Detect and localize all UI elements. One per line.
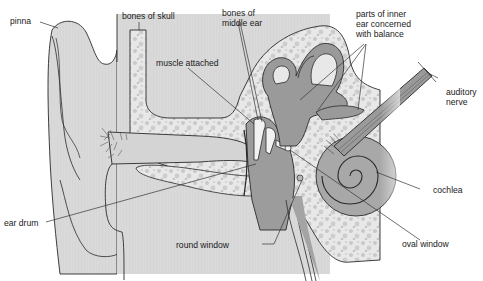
label-cochlea: cochlea bbox=[433, 185, 463, 195]
label-pinna: pinna bbox=[10, 16, 31, 26]
label-oval-window: oval window bbox=[402, 239, 449, 249]
label-bones-of-middle-ear-line1: bones of bbox=[222, 8, 255, 18]
pinna-shape bbox=[48, 21, 118, 274]
label-inner-ear-balance-line3: with balance bbox=[356, 29, 404, 39]
label-muscle-attached: muscle attached bbox=[156, 58, 219, 68]
label-auditory-nerve-line1: auditory bbox=[446, 87, 477, 97]
label-ear-drum: ear drum bbox=[4, 218, 38, 228]
label-round-window: round window bbox=[176, 240, 229, 250]
label-bones-of-middle-ear-line2: middle ear bbox=[222, 18, 262, 28]
label-bones-of-skull: bones of skull bbox=[122, 11, 175, 21]
label-inner-ear-balance-line2: ear concerned bbox=[356, 19, 411, 29]
label-auditory-nerve-line2: nerve bbox=[446, 97, 468, 107]
label-inner-ear-balance-line1: parts of inner bbox=[356, 9, 406, 19]
